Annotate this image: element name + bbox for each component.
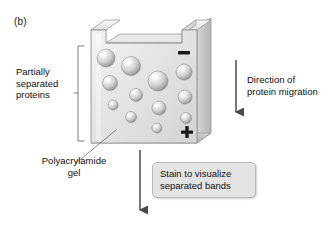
panel-letter: (b) — [14, 16, 27, 27]
negative-electrode-icon — [178, 51, 190, 54]
direction-of-protein-migration-label: Direction of protein migration — [247, 74, 331, 97]
protein-spot-sphere — [130, 89, 143, 102]
protein-spot — [151, 101, 168, 117]
protein-spot-sphere — [108, 100, 118, 110]
protein-spot-highlight — [155, 104, 159, 107]
gel-notch-floor — [106, 34, 182, 43]
protein-spot-highlight — [106, 79, 111, 82]
protein-spot-sphere — [97, 49, 115, 67]
protein-spot-sphere — [181, 113, 192, 124]
partially-separated-proteins-bracket — [74, 46, 84, 141]
protein-spot-highlight — [128, 114, 131, 117]
protein-spot-highlight — [110, 102, 113, 104]
protein-spot — [147, 71, 171, 94]
figure-panel-b: (b) Partially separated proteins Directi… — [0, 0, 331, 229]
protein-spot — [120, 56, 143, 78]
protein-spot — [102, 76, 120, 93]
protein-spot-highlight — [152, 75, 158, 80]
protein-spot-sphere — [152, 101, 166, 115]
protein-spot — [175, 64, 195, 83]
protein-spot-sphere — [126, 112, 137, 123]
protein-spot-sphere — [176, 64, 192, 80]
protein-spot-sphere — [152, 123, 162, 133]
protein-spot — [96, 49, 118, 70]
protein-spot-sphere — [103, 76, 118, 91]
gel-right-face — [197, 18, 211, 143]
protein-spot — [177, 90, 194, 106]
protein-spot-highlight — [101, 53, 106, 57]
partially-separated-proteins-label: Partially separated proteins — [16, 66, 74, 101]
protein-spot-sphere — [148, 71, 168, 91]
gel-left-post-top — [91, 20, 120, 30]
protein-spot-highlight — [125, 60, 131, 64]
protein-spot-highlight — [179, 67, 184, 71]
protein-spot-highlight — [183, 115, 186, 118]
polyacrylamide-gel-label: Polyacrylamide gel — [28, 155, 120, 178]
protein-spot-sphere — [178, 90, 192, 104]
stain-callout-box: Stain to visualize separated bands — [152, 162, 256, 198]
protein-spot-highlight — [154, 125, 157, 127]
gel-face-highlight — [96, 33, 101, 141]
protein-spot-highlight — [181, 93, 185, 96]
protein-spot-highlight — [132, 91, 136, 94]
stain-callout-text: Stain to visualize separated bands — [160, 168, 249, 191]
protein-spot-sphere — [122, 57, 141, 76]
